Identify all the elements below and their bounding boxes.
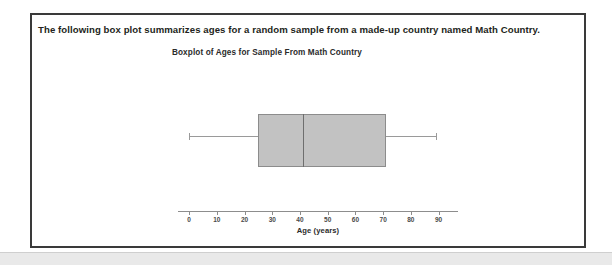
x-axis-tick-label: 70 bbox=[373, 216, 393, 223]
x-axis-tick-label: 50 bbox=[318, 216, 338, 223]
whisker-left-cap bbox=[189, 133, 190, 140]
boxplot-median-line bbox=[303, 114, 304, 167]
x-axis-tick bbox=[355, 212, 356, 215]
x-axis-tick bbox=[217, 212, 218, 215]
x-axis-tick-label: 10 bbox=[207, 216, 227, 223]
x-axis-tick-label: 80 bbox=[401, 216, 421, 223]
x-axis-tick-label: 90 bbox=[429, 216, 449, 223]
x-axis-tick bbox=[328, 212, 329, 215]
x-axis-tick bbox=[439, 212, 440, 215]
x-axis-tick bbox=[272, 212, 273, 215]
page-bottom-strip bbox=[0, 252, 612, 265]
x-axis-tick-label: 40 bbox=[290, 216, 310, 223]
whisker-left bbox=[189, 136, 258, 137]
x-axis-tick bbox=[245, 212, 246, 215]
x-axis-tick bbox=[300, 212, 301, 215]
x-axis-title: Age (years) bbox=[258, 226, 378, 235]
x-axis-tick bbox=[189, 212, 190, 215]
boxplot-figure: 0102030405060708090Age (years) bbox=[32, 15, 588, 246]
x-axis-tick bbox=[383, 212, 384, 215]
whisker-right-cap bbox=[436, 133, 437, 140]
x-axis-tick-label: 60 bbox=[345, 216, 365, 223]
question-card: The following box plot summarizes ages f… bbox=[30, 13, 586, 248]
x-axis-line bbox=[178, 211, 458, 212]
x-axis-tick-label: 0 bbox=[179, 216, 199, 223]
x-axis-tick bbox=[411, 212, 412, 215]
x-axis-tick-label: 20 bbox=[235, 216, 255, 223]
x-axis-tick-label: 30 bbox=[262, 216, 282, 223]
boxplot-box bbox=[258, 114, 386, 167]
whisker-right bbox=[386, 136, 436, 137]
